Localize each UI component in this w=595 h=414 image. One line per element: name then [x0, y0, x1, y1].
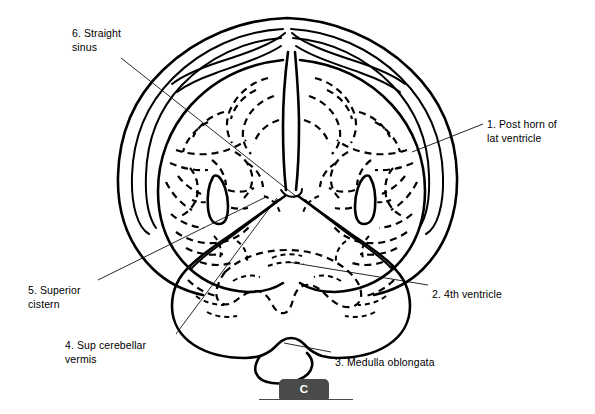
lateral-ventricle-posterior-horns — [208, 176, 376, 225]
sinus-channel-left — [177, 46, 281, 92]
fourth-ventricle-group — [216, 250, 361, 313]
label-sup-cerebellar-vermis: 4. Sup cerebellar vermis — [65, 338, 146, 366]
label-superior-cistern: 5. Superior cistern — [28, 283, 81, 311]
label-fourth-ventricle: 2. 4th ventricle — [432, 287, 502, 301]
left-hemisphere-sulci — [166, 78, 280, 265]
panel-marker: C — [0, 379, 595, 405]
label-medulla-oblongata: 3. Medulla oblongata — [335, 355, 435, 369]
label-post-horn-lat-ventricle: 1. Post horn of lat ventricle — [487, 117, 557, 145]
fourth-ventricle-outline — [216, 250, 361, 313]
leader-superior-cistern — [98, 196, 268, 280]
leader-straight-sinus — [121, 58, 297, 197]
right-hemisphere-sulci — [303, 78, 417, 265]
leader-medulla-oblongata — [284, 343, 331, 352]
brain-cross-section-figure: 1. Post horn of lat ventricle 2. 4th ven… — [0, 0, 595, 414]
superior-sagittal-sinus-group — [172, 33, 405, 92]
panel-letter-c: C — [279, 379, 329, 399]
fourth-ventricle-inner-right — [314, 276, 341, 281]
quadrigeminal-cistern-right — [305, 200, 392, 269]
superior-cerebellar-vermis — [268, 254, 304, 266]
falx-cerebri-midline-right — [295, 52, 299, 190]
panel-marker-rule — [259, 399, 353, 400]
falx-cerebri-midline — [283, 52, 288, 190]
falx-cerebri-group — [283, 52, 299, 190]
fourth-ventricle-inner-left — [233, 276, 260, 281]
label-straight-sinus: 6. Straight sinus — [72, 26, 121, 54]
quadrigeminal-cistern-left — [191, 200, 278, 269]
